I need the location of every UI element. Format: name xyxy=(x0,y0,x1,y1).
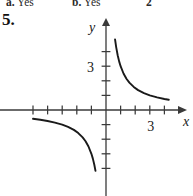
plot-svg: 33yx xyxy=(0,0,193,196)
x-tick-label: 3 xyxy=(147,119,154,134)
curve-branch-upper-right xyxy=(115,39,169,99)
curve-group xyxy=(33,39,169,171)
axes-group xyxy=(0,18,187,196)
x-axis-arrowhead xyxy=(178,106,187,114)
y-axis-arrowhead xyxy=(102,18,110,26)
y-axis-label: y xyxy=(87,20,96,35)
figure-page: a. Yes b. Yes 2 5. 33yx xyxy=(0,0,193,196)
x-axis-label: x xyxy=(182,114,190,129)
labels-group: 33yx xyxy=(87,20,190,134)
curve-branch-lower-left xyxy=(33,119,95,171)
hyperbola-graph: 33yx xyxy=(0,0,193,196)
y-tick-label: 3 xyxy=(87,60,94,75)
